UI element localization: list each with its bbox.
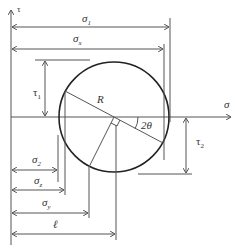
tau1-label: τ1 (33, 86, 41, 101)
sigmax-label: σx (73, 32, 82, 47)
angle-label: 2θ (141, 119, 153, 131)
mohr-circle-diagram: τ σ σ1 σx τ1 τ2 R 2θ σ2 σz σy ℓ (0, 0, 236, 250)
perpendicular-line (89, 117, 114, 167)
sigma1-label: σ1 (82, 12, 91, 27)
sigmaz-label: σz (34, 174, 42, 189)
radius-label: R (96, 93, 104, 105)
tau-axis-label: τ (17, 4, 21, 14)
ell-label: ℓ (53, 218, 58, 230)
angle-arc (135, 117, 138, 129)
tau2-label: τ2 (196, 135, 204, 150)
sigma2-label: σ2 (32, 153, 41, 168)
sigma-axis-label: σ (224, 98, 230, 110)
sigmay-label: σy (42, 196, 51, 211)
